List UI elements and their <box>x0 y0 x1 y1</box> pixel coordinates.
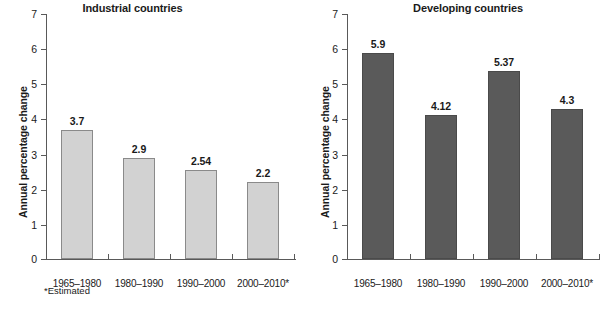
bar-value-left-2000-2010: 2.2 <box>256 167 270 179</box>
footnote-estimated: *Estimated <box>44 285 90 296</box>
y-tick-label-right-7: 0 <box>332 254 338 265</box>
chart-title-left: Industrial countries <box>0 2 285 14</box>
bar-left-1965-1980[interactable] <box>61 130 93 260</box>
bar-right-2000-2010[interactable] <box>551 109 583 260</box>
bar-value-right-1980-1990: 4.12 <box>431 100 451 112</box>
y-tick-label-left-1: 6 <box>31 44 37 55</box>
x-category-label-left-2000-2010: 2000–2010* <box>237 278 289 289</box>
bar-right-1980-1990[interactable] <box>425 115 457 259</box>
x-category-label-right-1965-1980: 1965–1980 <box>354 278 402 289</box>
x-category-label-right-2000-2010: 2000–2010* <box>541 278 593 289</box>
chart-title-right: Developing countries <box>315 2 611 14</box>
y-axis-label-right: Annual percentage change <box>319 86 331 218</box>
y-tick-label-left-7: 0 <box>31 254 37 265</box>
x-axis-line-left <box>46 259 296 260</box>
y-tick-label-right-6: 1 <box>332 220 338 231</box>
chart-panel-developing-countries: Developing countries Annual percentage c… <box>305 0 611 316</box>
y-axis-line-left <box>46 14 47 260</box>
y-tick-label-right-0: 7 <box>332 9 338 20</box>
bar-value-left-1965-1980: 3.7 <box>70 115 84 127</box>
y-tick-label-right-2: 5 <box>332 79 338 90</box>
bar-value-right-2000-2010: 4.3 <box>560 94 574 106</box>
y-tick-label-left-5: 2 <box>31 184 37 195</box>
y-tick-label-left-4: 3 <box>31 149 37 160</box>
y-tick-label-left-2: 5 <box>31 79 37 90</box>
y-tick-label-left-3: 4 <box>31 114 37 125</box>
y-tick-label-right-5: 2 <box>332 184 338 195</box>
x-category-label-right-1990-2000: 1990–2000 <box>480 278 528 289</box>
x-tick-separator-left-2 <box>170 254 171 260</box>
y-tick-label-right-3: 4 <box>332 114 338 125</box>
y-tick-label-left-6: 1 <box>31 220 37 231</box>
x-tick-separator-right-4 <box>599 254 600 260</box>
y-tick-label-right-1: 6 <box>332 44 338 55</box>
x-tick-separator-left-4 <box>294 254 295 260</box>
bar-value-left-1990-2000: 2.54 <box>191 155 211 167</box>
bar-value-right-1965-1980: 5.9 <box>371 38 385 50</box>
y-axis-label-left: Annual percentage change <box>17 86 29 218</box>
x-category-label-right-1980-1990: 1980–1990 <box>417 278 465 289</box>
plot-area-right: 7 6 5 4 3 2 1 <box>347 14 600 260</box>
y-axis-line-right <box>347 14 348 260</box>
x-tick-separator-left-1 <box>108 254 109 260</box>
x-tick-separator-right-3 <box>536 254 537 260</box>
plot-area-left: 7 6 5 4 3 2 1 <box>46 14 296 260</box>
bar-value-left-1980-1990: 2.9 <box>132 143 146 155</box>
bar-right-1990-2000[interactable] <box>488 71 520 259</box>
figure-two-bar-charts: Industrial countries Annual percentage c… <box>0 0 611 316</box>
x-category-label-left-1980-1990: 1980–1990 <box>115 278 163 289</box>
bar-left-1980-1990[interactable] <box>123 158 155 260</box>
bar-left-1990-2000[interactable] <box>185 170 217 259</box>
chart-panel-industrial-countries: Industrial countries Annual percentage c… <box>0 0 305 316</box>
y-tick-label-right-4: 3 <box>332 149 338 160</box>
bar-right-1965-1980[interactable] <box>362 53 394 260</box>
x-tick-separator-right-2 <box>473 254 474 260</box>
bar-left-2000-2010[interactable] <box>247 182 279 259</box>
x-tick-separator-left-3 <box>232 254 233 260</box>
bar-value-right-1990-2000: 5.37 <box>494 56 514 68</box>
x-category-label-left-1990-2000: 1990–2000 <box>177 278 225 289</box>
y-tick-label-left-0: 7 <box>31 9 37 20</box>
x-tick-separator-right-1 <box>410 254 411 260</box>
